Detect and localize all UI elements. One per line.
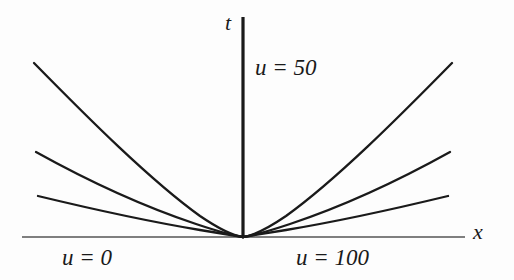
curve-left-steep bbox=[34, 63, 243, 237]
region-label-u-0: u = 0 bbox=[62, 246, 112, 269]
region-label-u-100: u = 100 bbox=[296, 246, 369, 269]
characteristics-plot bbox=[0, 0, 514, 280]
x-axis-label: x bbox=[473, 221, 483, 243]
curve-right-steep bbox=[243, 63, 452, 237]
region-label-u-50: u = 50 bbox=[255, 56, 317, 79]
t-axis-label: t bbox=[225, 12, 231, 34]
figure-container: t x u = 50 u = 0 u = 100 bbox=[0, 0, 514, 280]
axes-group bbox=[22, 17, 465, 237]
